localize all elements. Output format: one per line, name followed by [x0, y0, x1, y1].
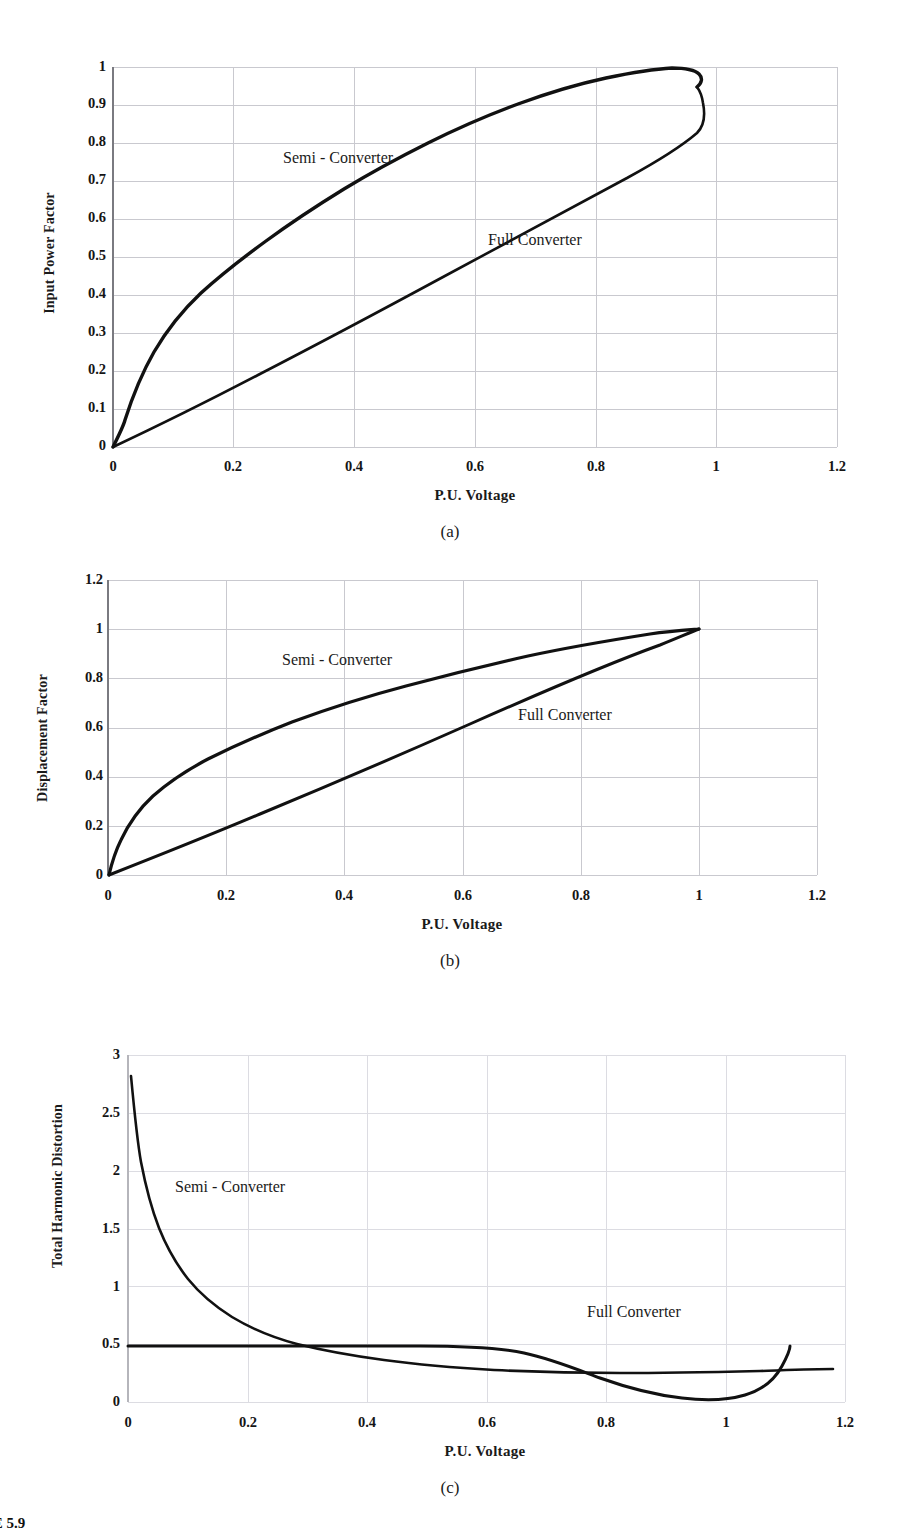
chart-c-label-semi: Semi - Converter — [175, 1178, 286, 1195]
figure-page: Input Power Factor 1 0.9 0.8 0.7 0.6 0.5… — [0, 0, 900, 1535]
chart-c-xtick: 0 — [103, 1414, 153, 1431]
chart-b-xtick: 0.6 — [438, 887, 488, 904]
figure-reference-clip: RE 5.9 — [0, 1518, 300, 1535]
chart-b-xtick: 1 — [674, 887, 724, 904]
chart-a-xtick: 0.4 — [329, 458, 379, 475]
chart-panel-c: Total Harmonic Distortion 3 2.5 2 1.5 1 … — [0, 990, 900, 1490]
chart-a-caption: (a) — [0, 522, 900, 542]
chart-a-label-semi: Semi - Converter — [283, 149, 394, 166]
chart-b-xtick: 0.8 — [556, 887, 606, 904]
chart-a-x-axis-label: P.U. Voltage — [375, 487, 575, 504]
chart-c-label-full: Full Converter — [587, 1303, 681, 1320]
chart-c-series-semi — [131, 1076, 833, 1373]
chart-c-caption: (c) — [0, 1478, 900, 1498]
chart-panel-b: Displacement Factor 1.2 1 0.8 0.6 0.4 0.… — [0, 555, 900, 1005]
chart-a-xtick: 1 — [691, 458, 741, 475]
chart-a-xtick: 0 — [88, 458, 138, 475]
chart-b-label-full: Full Converter — [518, 706, 612, 723]
chart-b-plot: Semi - Converter Full Converter — [0, 555, 900, 1005]
figure-reference: RE 5.9 — [0, 1518, 25, 1532]
chart-a-xtick: 0.6 — [450, 458, 500, 475]
chart-b-xtick: 1.2 — [792, 887, 842, 904]
chart-b-caption: (b) — [0, 951, 900, 971]
chart-a-series-full — [113, 87, 704, 447]
chart-c-xtick: 0.8 — [581, 1414, 631, 1431]
chart-a-xtick: 0.2 — [208, 458, 258, 475]
chart-c-xtick: 0.2 — [223, 1414, 273, 1431]
chart-b-x-axis-label: P.U. Voltage — [362, 916, 562, 933]
chart-c-xtick: 1.2 — [820, 1414, 870, 1431]
chart-b-label-semi: Semi - Converter — [282, 651, 393, 668]
chart-a-plot: Semi - Converter Full Converter — [0, 0, 900, 560]
chart-c-xtick: 0.6 — [462, 1414, 512, 1431]
chart-c-xtick: 0.4 — [342, 1414, 392, 1431]
chart-b-xtick: 0 — [83, 887, 133, 904]
chart-a-label-full: Full Converter — [488, 231, 582, 248]
chart-panel-a: Input Power Factor 1 0.9 0.8 0.7 0.6 0.5… — [0, 0, 900, 560]
chart-c-x-axis-label: P.U. Voltage — [385, 1443, 585, 1460]
chart-b-xtick: 0.4 — [319, 887, 369, 904]
chart-b-series-full — [109, 629, 699, 875]
chart-a-xtick: 1.2 — [812, 458, 862, 475]
chart-a-xtick: 0.8 — [571, 458, 621, 475]
chart-b-xtick: 0.2 — [201, 887, 251, 904]
chart-c-xtick: 1 — [701, 1414, 751, 1431]
